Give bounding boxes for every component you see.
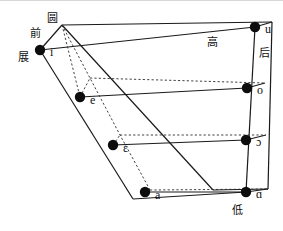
tier-line-mid-high [80,88,247,97]
rounded-edge-front [62,25,213,190]
tier-line-mid-low [113,140,246,145]
vowel-dot-group [35,22,260,197]
vowel-symbol-label: e [90,94,95,106]
vowel-symbol-label: ɔ [256,136,261,148]
vowel-symbol-label: ɑ [256,188,262,200]
vowel-chart-drawing [0,0,283,231]
vowel-dot [35,45,45,55]
label-spread: 展 [18,52,29,63]
vowel-dot [140,187,150,197]
vowel-symbol-label: ɛ [123,142,128,154]
label-rounded: 圆 [47,13,58,24]
vowel-symbol-label: a [155,189,160,201]
edge-high [40,27,255,50]
edge-front [40,50,133,199]
vowel-dot [241,135,251,145]
vowel-quadrilateral-figure: iueoɛɔaɑ 前 圆 展 高 后 低 [0,0,283,231]
edge-back [246,27,255,192]
rounded-edge-high [62,22,272,25]
label-low: 低 [232,205,243,216]
vowel-dot [250,22,260,32]
hidden-edges-dotted [62,25,268,192]
vowel-dot [108,140,118,150]
vowel-symbol-label: i [50,46,53,58]
vowel-symbol-label: u [265,23,271,35]
vowel-symbol-label: o [257,84,263,96]
label-back: 后 [259,48,270,59]
hidden-tier-mid-high [90,78,265,83]
plane-connectors [40,22,272,192]
vowel-dot [241,187,251,197]
tier-lines-solid [80,83,266,192]
vowel-dot [242,83,252,93]
unrounded-plane-outline [40,27,255,199]
label-front: 前 [30,28,41,39]
label-high: 高 [207,37,218,48]
vowel-dot [75,92,85,102]
hidden-left-diagonal [62,25,80,97]
